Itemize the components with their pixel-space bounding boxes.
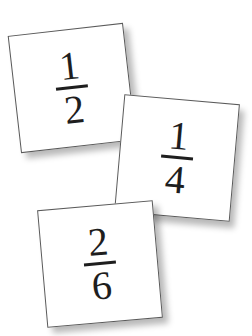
numerator: 1 [58, 49, 81, 83]
fraction: 2 6 [81, 225, 120, 303]
fraction: 1 4 [158, 119, 197, 197]
denominator: 2 [63, 93, 86, 127]
denominator: 4 [164, 163, 187, 197]
fraction: 1 2 [52, 48, 92, 127]
fraction-card-two-sixths: 2 6 [37, 200, 163, 328]
numerator: 1 [168, 119, 191, 153]
numerator: 2 [87, 225, 110, 259]
fraction-card-one-half: 1 2 [8, 23, 137, 153]
denominator: 6 [91, 269, 114, 303]
